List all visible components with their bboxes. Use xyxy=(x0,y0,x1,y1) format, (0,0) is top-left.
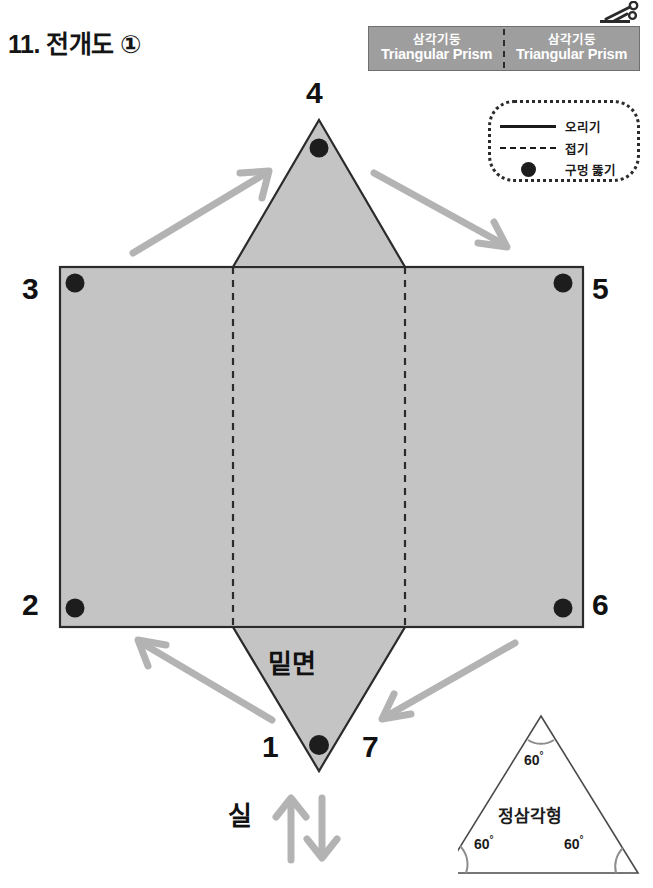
hole-6 xyxy=(554,599,573,618)
thread-arrow-down xyxy=(307,798,337,858)
net-label-7: 7 xyxy=(362,730,379,764)
net-label-2: 2 xyxy=(22,588,39,622)
hole-4 xyxy=(310,139,329,158)
degree-symbol-top: ° xyxy=(540,750,544,761)
degree-symbol-left: ° xyxy=(490,834,494,845)
hole-2 xyxy=(66,599,85,618)
bottom-face-label: 밑면 xyxy=(268,643,316,680)
hole-1-7 xyxy=(309,735,329,755)
angle-value-top: 60 xyxy=(524,752,540,768)
triangle-name-label: 정삼각형 xyxy=(498,802,562,827)
angle-label-left: 60° xyxy=(474,834,494,852)
angle-value-right: 60 xyxy=(564,836,580,852)
angle-label-right: 60° xyxy=(564,834,584,852)
thread-label: 실 xyxy=(228,795,252,832)
net-rectangle-body xyxy=(60,267,583,627)
net-label-6: 6 xyxy=(592,588,609,622)
equilateral-triangle-figure xyxy=(458,706,648,884)
angle-value-left: 60 xyxy=(474,836,490,852)
degree-symbol-right: ° xyxy=(580,834,584,845)
equilateral-triangle-panel: 60° 정삼각형 60° 60° xyxy=(458,706,648,884)
hole-5 xyxy=(554,274,573,293)
angle-label-top: 60° xyxy=(524,750,544,768)
hole-3 xyxy=(66,274,85,293)
thread-arrows xyxy=(276,798,337,860)
thread-arrow-up xyxy=(276,798,306,860)
net-label-4: 4 xyxy=(306,76,323,110)
net-label-1: 1 xyxy=(262,730,279,764)
arrow-top-right xyxy=(374,173,507,247)
net-label-5: 5 xyxy=(592,272,609,306)
net-label-3: 3 xyxy=(22,272,39,306)
